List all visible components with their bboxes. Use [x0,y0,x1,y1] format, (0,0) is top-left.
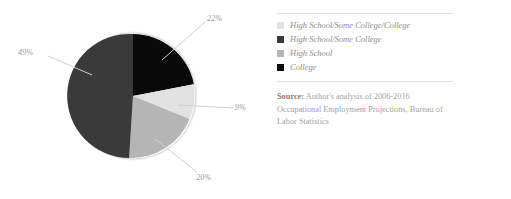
leader-line-college [162,22,205,60]
legend-item-label: High School [290,48,332,59]
pie-chart-figure: 22% 49% 9% 20% High School/Some College/… [0,0,511,199]
legend-swatch-icon [277,64,284,71]
pie-slice-hs-some-college [67,34,133,158]
legend-item-label: High School/Some College [290,34,382,45]
pie-label-hs-some-college: 49% [18,48,34,57]
pie-chart-area: 22% 49% 9% 20% [0,0,268,199]
legend-item-label: High School/Some College/College [290,20,410,31]
pie-label-college: 22% [207,14,223,23]
source-label: Source: [277,92,304,101]
legend-item-high-school: High School [277,47,453,60]
pie-label-hs-some-college-college: 9% [235,103,246,112]
pie-label-high-school: 20% [196,173,212,182]
legend-item-hs-some-college: High School/Some College [277,33,453,46]
source-note: Source: Author's analysis of 2006-2016 O… [277,82,453,129]
legend-item-hs-some-college-college: High School/Some College/College [277,19,453,32]
legend-swatch-icon [277,50,284,57]
legend-item-label: College [290,62,316,73]
legend-item-college: College [277,61,453,74]
pie-chart-svg [0,0,268,199]
legend-swatch-icon [277,36,284,43]
chart-side-panel: High School/Some College/College High Sc… [277,13,453,129]
chart-legend: High School/Some College/College High Sc… [277,14,453,81]
legend-swatch-icon [277,22,284,29]
